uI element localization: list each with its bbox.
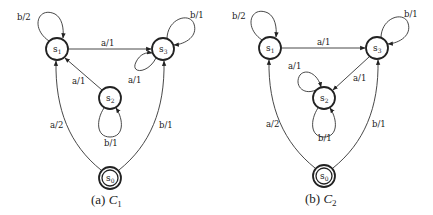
edge-label: a/2: [50, 120, 63, 130]
edge-c1-s3-s3-a1: [135, 53, 156, 71]
edge-c2-s1-s1-b2: [251, 11, 276, 40]
state-c2-s2: s2: [313, 87, 335, 109]
edge-label: b/1: [404, 9, 418, 19]
state-c2-s0-initial: s0: [313, 165, 335, 187]
edge-label: a/2: [266, 119, 279, 129]
state-c1-s1: s1: [46, 38, 68, 60]
state-c1-s0-initial: s0: [99, 167, 121, 189]
edge-label: a/1: [101, 38, 114, 48]
edge-label: b/1: [318, 133, 332, 143]
diagram-canvas: b/2 a/1 b/1 a/1 a/1 b/1 a/2 b/1 s1 s3: [0, 0, 433, 215]
figure-c2: b/2 a/1 b/1 a/1 a/1 b/1 a/2 b/1 s1 s3: [232, 9, 418, 208]
edge-label: a/1: [128, 75, 141, 85]
caption-c2: (b) C2: [305, 191, 337, 208]
edge-label: b/1: [159, 120, 173, 130]
edge-label: a/1: [72, 76, 85, 86]
figure-c1: b/2 a/1 b/1 a/1 a/1 b/1 a/2 b/1 s1 s3: [17, 10, 204, 209]
edge-label: b/1: [372, 119, 386, 129]
edge-c1-s0-s3-b1: [119, 61, 164, 170]
edge-label: b/2: [17, 12, 31, 22]
state-c1-s2: s2: [99, 87, 121, 109]
edge-c1-s1-s1-b2: [38, 12, 63, 41]
edge-c1-s2-s2-b1: [99, 108, 122, 137]
state-c1-s3: s3: [152, 38, 174, 60]
caption-c1: (a) C1: [91, 192, 122, 209]
edge-label: a/1: [288, 61, 301, 71]
edge-label: b/1: [190, 10, 204, 20]
edge-label: b/1: [104, 138, 118, 148]
edge-label: b/2: [232, 11, 246, 21]
edge-label: a/1: [317, 37, 330, 47]
edge-label: a/1: [353, 73, 366, 83]
state-c2-s1: s1: [259, 37, 281, 59]
edge-c2-s0-s1-a2: [269, 60, 315, 168]
state-c2-s3: s3: [366, 37, 388, 59]
